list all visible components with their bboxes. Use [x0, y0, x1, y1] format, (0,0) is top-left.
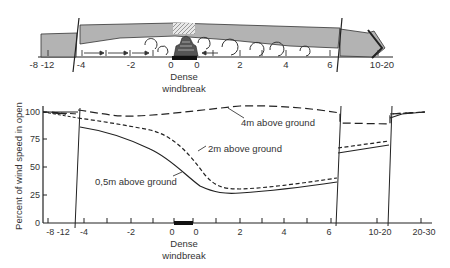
x-tick-label: 20-30: [412, 227, 435, 237]
chart-divider-left: [75, 108, 80, 228]
chart-divider-mid: [336, 106, 341, 226]
schematic-x-label: 6: [327, 59, 332, 70]
windbreak-base-bar: [172, 56, 197, 60]
x-tick-label: -2: [127, 227, 135, 237]
tree-windbreak-icon: [172, 36, 198, 60]
chart-divider-right: [388, 106, 392, 226]
ground-flow-arrows: [48, 50, 378, 56]
y-axis-label: Percent of wind speed in open: [13, 102, 24, 230]
y-tick-label: 75: [30, 134, 40, 144]
series-label-05m: 0,5m above ground: [95, 176, 177, 187]
x-tick-label: 6: [326, 227, 331, 237]
schematic-x-label: 2: [237, 59, 242, 70]
schematic: -8 -12 -4 -2 0 0 2 4 6 10-20 Dense windb…: [30, 18, 395, 94]
schematic-x-label: 10-20: [370, 59, 394, 70]
windbreak-label: windbreak: [161, 83, 206, 94]
upwind-lines: [43, 112, 78, 118]
x-tick-label: -8 -12: [46, 227, 70, 237]
x-tick-label: 0: [193, 227, 198, 237]
y-tick-label: 50: [30, 162, 40, 172]
schematic-x-label: 0: [194, 59, 199, 70]
schematic-x-label: -8 -12: [30, 59, 55, 70]
schematic-x-label: -4: [77, 59, 85, 70]
schematic-x-label: 0: [168, 59, 173, 70]
upstream-airflow-band: [41, 33, 77, 57]
y-tick-label: 25: [30, 190, 40, 200]
windbreak-marker: [174, 221, 193, 225]
y-tick-label: 0: [35, 218, 40, 228]
y-tick-label: 100: [25, 107, 40, 117]
wind-speed-chart: 100 75 50 25 0 Percent of wind speed in …: [13, 102, 436, 261]
schematic-x-label: 4: [283, 59, 288, 70]
windbreak-label: windbreak: [161, 250, 206, 261]
x-tick-label: 4: [281, 227, 286, 237]
schematic-x-label: -2: [127, 59, 135, 70]
series-label-4m: 4m above ground: [241, 117, 315, 128]
turbulence-zone: [173, 23, 195, 34]
x-tick-label: 2: [237, 227, 242, 237]
series-label-2m: 2m above ground: [208, 143, 282, 154]
x-tick-label: 0: [169, 227, 174, 237]
windbreak-label: Dense: [170, 71, 197, 82]
windbreak-label: Dense: [170, 238, 197, 249]
x-tick-label: -4: [80, 227, 88, 237]
windbreak-diagram: -8 -12 -4 -2 0 0 2 4 6 10-20 Dense windb…: [0, 0, 450, 268]
x-tick-label: 10-20: [368, 227, 391, 237]
